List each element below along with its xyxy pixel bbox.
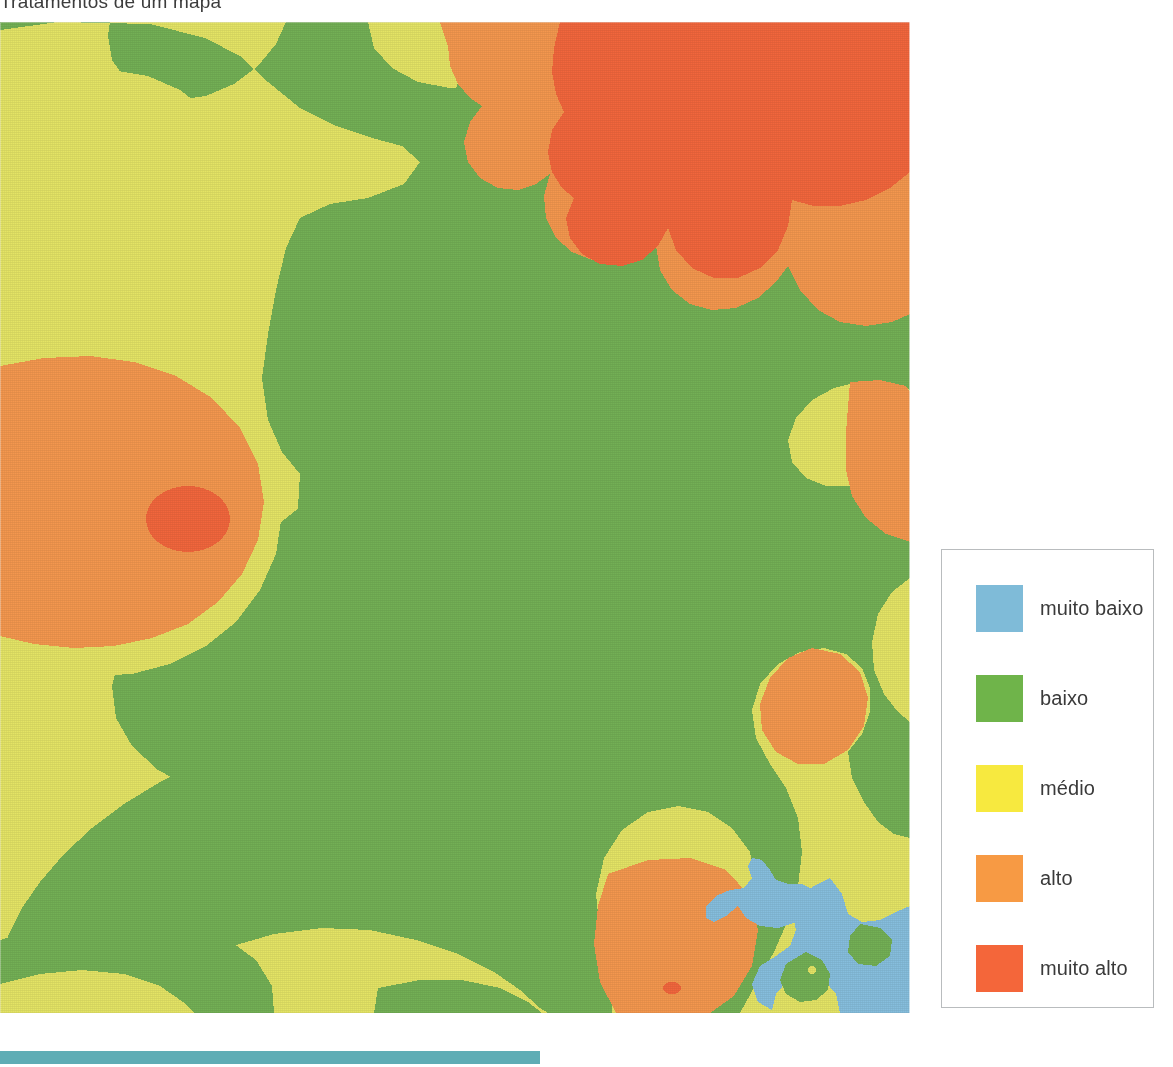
legend-swatch-baixo xyxy=(976,675,1023,722)
map-class-muito-alto-west-core xyxy=(146,486,230,552)
legend-label-baixo: baixo xyxy=(1040,687,1088,710)
map-class-muito-alto-speck xyxy=(663,982,681,994)
footer-rule xyxy=(0,1051,540,1064)
map-legend[interactable]: muito baixo baixo médio alto muito alto xyxy=(941,549,1154,1008)
legend-swatch-medio xyxy=(976,765,1023,812)
legend-swatch-muito-baixo xyxy=(976,585,1023,632)
legend-label-muito-alto: muito alto xyxy=(1040,957,1128,980)
map-panel[interactable] xyxy=(0,22,910,1013)
map-noise-speck-1 xyxy=(103,131,109,137)
map-right-edge xyxy=(909,22,910,1013)
legend-swatch-alto xyxy=(976,855,1023,902)
map-noise-speck-2 xyxy=(114,132,120,138)
legend-item-alto[interactable]: alto xyxy=(942,848,1153,908)
classification-raster-map[interactable] xyxy=(0,22,910,1013)
legend-item-muito-baixo[interactable]: muito baixo xyxy=(942,578,1153,638)
legend-item-muito-alto[interactable]: muito alto xyxy=(942,938,1153,998)
figure-caption: Tratamentos de um mapa xyxy=(0,0,700,17)
legend-swatch-muito-alto xyxy=(976,945,1023,992)
legend-label-medio: médio xyxy=(1040,777,1095,800)
legend-item-baixo[interactable]: baixo xyxy=(942,668,1153,728)
legend-item-medio[interactable]: médio xyxy=(942,758,1153,818)
legend-label-alto: alto xyxy=(1040,867,1073,890)
map-noise-speck-3 xyxy=(808,966,816,974)
legend-label-muito-baixo: muito baixo xyxy=(1040,597,1143,620)
